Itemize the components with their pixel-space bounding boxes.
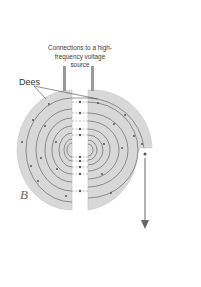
dees-label: Dees xyxy=(19,77,40,87)
connections-label-line-3: source xyxy=(40,61,120,70)
right-dee xyxy=(88,90,152,210)
exit-beam-arrow xyxy=(141,153,149,230)
cyclotron-diagram: Connections to a high- frequency voltage… xyxy=(0,0,201,287)
magnetic-field-label: B xyxy=(20,187,28,203)
connections-label: Connections to a high- frequency voltage… xyxy=(40,44,120,70)
gap-crossings xyxy=(72,102,88,191)
connections-label-line-1: Connections to a high- xyxy=(40,44,120,53)
connections-label-line-2: frequency voltage xyxy=(40,53,120,62)
